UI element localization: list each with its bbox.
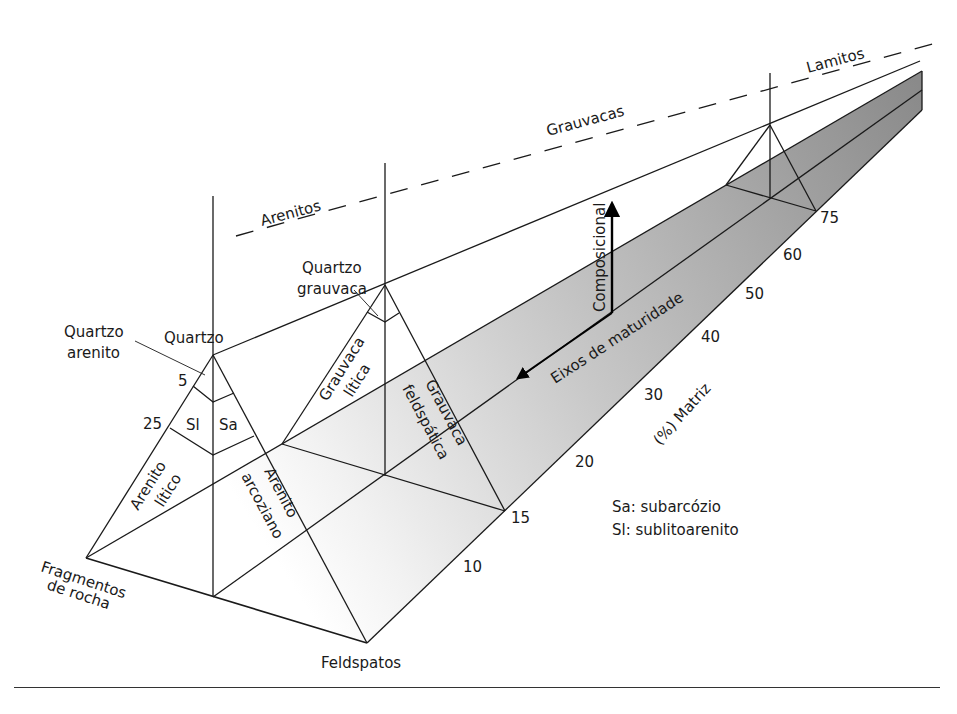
tick-quartz-25: 25 [143, 415, 162, 433]
tick-matrix-10: 10 [463, 558, 482, 576]
tick-matrix-30: 30 [644, 386, 663, 404]
label-quartzo-arenito-2: arenito [67, 344, 120, 362]
label-composicional: Composicional [591, 203, 609, 312]
tick-quartz-5: 5 [178, 372, 188, 390]
label-feldspatos: Feldspatos [321, 654, 401, 672]
tick-matrix-20: 20 [575, 453, 594, 471]
label-quartzo-grauvaca-2: grauvaca [297, 280, 367, 298]
tick-matrix-60: 60 [783, 246, 802, 264]
caption-divider [14, 687, 940, 688]
label-sl: Sl [186, 416, 200, 434]
label-sa: Sa [219, 416, 238, 434]
tick-matrix-15: 15 [511, 509, 530, 527]
legend: Sa: subarcózio Sl: sublitoarenito [612, 498, 739, 539]
sandstone-classification-diagram: Arenitos Grauvacas Lamitos Quartzo Fragm… [0, 0, 957, 714]
label-grauvacas: Grauvacas [544, 102, 626, 140]
legend-sa: Sa: subarcózio [612, 498, 721, 516]
label-quartzo-arenito-1: Quartzo [64, 323, 124, 341]
label-quartzo-grauvaca-1: Quartzo [302, 259, 362, 277]
tick-matrix-40: 40 [701, 328, 720, 346]
label-lamitos: Lamitos [804, 44, 866, 77]
label-arenitos: Arenitos [258, 196, 323, 229]
legend-sl: Sl: sublitoarenito [612, 521, 739, 539]
tick-matrix-75: 75 [820, 209, 839, 227]
label-quartzo: Quartzo [164, 329, 224, 347]
tick-matrix-50: 50 [745, 285, 764, 303]
